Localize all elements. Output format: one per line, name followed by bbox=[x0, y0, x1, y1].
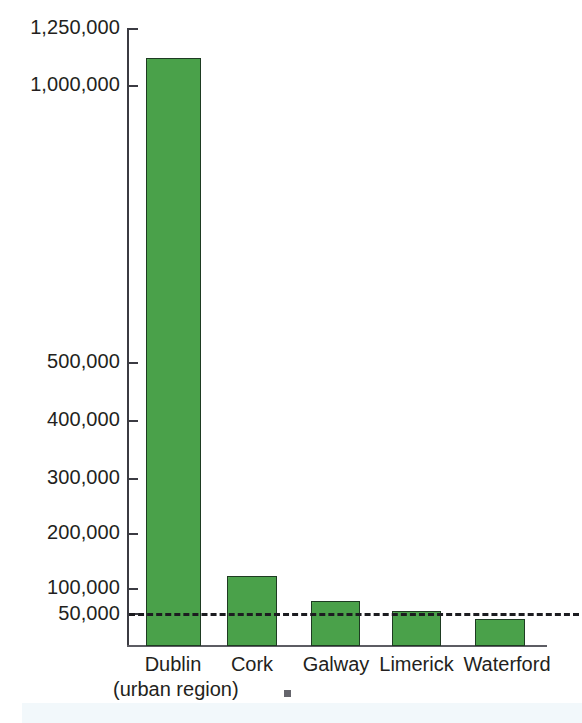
y-tick-mark-300000 bbox=[127, 478, 138, 480]
y-tick-label-50000: 50,000 bbox=[0, 602, 120, 625]
x-category-label-limerick: Limerick bbox=[369, 652, 464, 677]
x-category-label-galway: Galway bbox=[291, 652, 381, 677]
x-category-label-waterford: Waterford bbox=[452, 652, 562, 677]
chart-figure: 1,250,000 1,000,000 500,000 400,000 300,… bbox=[0, 0, 582, 723]
y-tick-label-100000: 100,000 bbox=[0, 576, 120, 599]
y-tick-label-300000: 300,000 bbox=[0, 466, 120, 489]
page-edge-tint bbox=[22, 703, 582, 723]
bar-dublin bbox=[146, 58, 201, 646]
y-axis-line bbox=[127, 28, 129, 647]
y-tick-mark-100000 bbox=[127, 588, 138, 590]
scan-speck bbox=[284, 690, 291, 697]
y-tick-mark-400000 bbox=[127, 420, 138, 422]
bar-waterford bbox=[475, 619, 525, 646]
plot-area: 1,250,000 1,000,000 500,000 400,000 300,… bbox=[0, 0, 582, 723]
y-tick-label-500000: 500,000 bbox=[0, 350, 120, 373]
y-tick-label-1250000: 1,250,000 bbox=[0, 16, 120, 39]
threshold-line-50000 bbox=[129, 613, 579, 616]
y-tick-mark-500000 bbox=[127, 362, 138, 364]
y-tick-label-200000: 200,000 bbox=[0, 521, 120, 544]
y-tick-label-400000: 400,000 bbox=[0, 408, 120, 431]
y-tick-mark-200000 bbox=[127, 533, 138, 535]
y-tick-mark-1000000 bbox=[127, 85, 138, 87]
y-tick-mark-1250000 bbox=[127, 28, 138, 30]
x-category-label-dublin-main: Dublin bbox=[145, 653, 202, 675]
bar-limerick bbox=[392, 611, 441, 646]
x-category-label-cork: Cork bbox=[212, 652, 292, 677]
bar-cork bbox=[227, 576, 277, 646]
x-category-label-dublin-sub: (urban region) bbox=[113, 677, 233, 702]
y-tick-label-1000000: 1,000,000 bbox=[0, 73, 120, 96]
bar-galway bbox=[311, 601, 360, 646]
